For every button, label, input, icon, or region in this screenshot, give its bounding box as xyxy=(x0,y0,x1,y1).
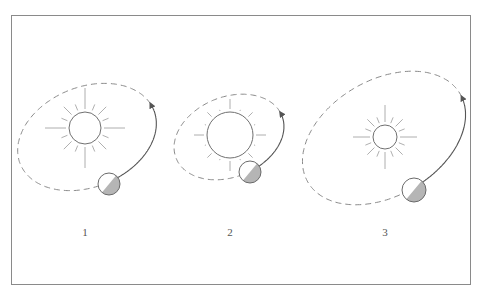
star-icon xyxy=(207,112,253,158)
panel-2 xyxy=(174,94,284,183)
orbit-diagram xyxy=(0,0,483,297)
panel-label-2: 2 xyxy=(227,226,233,238)
star-icon xyxy=(69,112,101,144)
panel-label-3: 3 xyxy=(382,226,388,238)
panel-3 xyxy=(303,71,466,205)
planet-icon xyxy=(239,161,261,183)
panel-1 xyxy=(18,83,157,195)
star-icon xyxy=(373,125,397,149)
orbit-direction-arrow xyxy=(413,97,466,189)
planet-icon xyxy=(98,173,120,195)
orbit-direction-arrow xyxy=(108,104,156,183)
panel-label-1: 1 xyxy=(82,226,88,238)
planet-icon xyxy=(402,178,426,202)
